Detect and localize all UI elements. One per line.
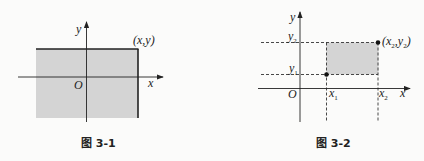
y-axis-label: y bbox=[75, 22, 82, 36]
shaded-rectangle bbox=[327, 43, 379, 75]
y1-label: y1 bbox=[288, 61, 298, 77]
figure-caption: 图 3-1 bbox=[81, 134, 116, 150]
figure-3-1: y x O (x,y) 图 3-1 bbox=[0, 0, 212, 161]
x-axis-label: x bbox=[147, 76, 154, 90]
point-x2-y2-label: (x2,y2) bbox=[382, 34, 411, 50]
figure-caption: 图 3-2 bbox=[316, 134, 351, 150]
x-axis-label: x bbox=[399, 86, 406, 100]
y2-label: y2 bbox=[287, 29, 297, 45]
origin-label: O bbox=[288, 87, 297, 101]
shaded-region bbox=[36, 49, 138, 118]
origin-label: O bbox=[74, 78, 83, 92]
y-axis-label: y bbox=[289, 10, 296, 24]
point-x2-y2 bbox=[376, 40, 381, 45]
point-x1-y1 bbox=[324, 72, 329, 77]
point-label: (x,y) bbox=[133, 33, 155, 47]
figure-3-2: y x O y2 y1 x1 x2 (x2,y2) 图 3-2 bbox=[212, 0, 424, 161]
